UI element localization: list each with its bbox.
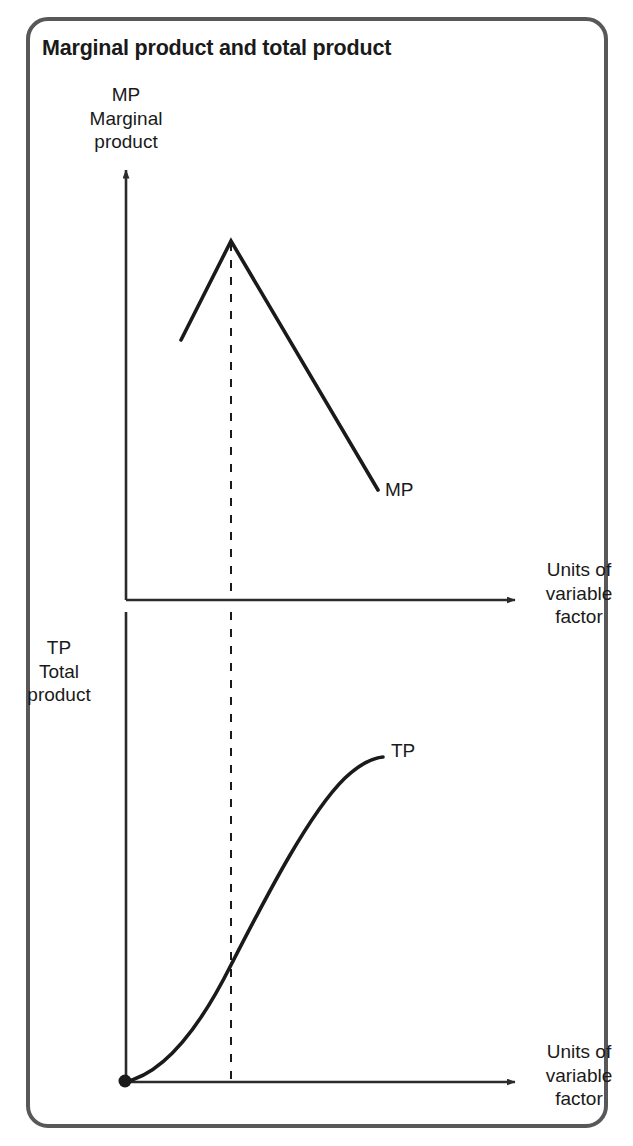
tp-x-axis-label: Units of variable factor	[531, 1040, 627, 1111]
tp-origin-marker	[119, 1075, 132, 1088]
mp-x-axis-label: Units of variable factor	[531, 558, 627, 629]
tp-panel	[119, 612, 516, 1088]
mp-y-axis-label: MP Marginal product	[46, 83, 206, 154]
mp-curve	[181, 241, 378, 490]
tp-y-axis-label: TP Total product	[0, 636, 118, 707]
figure-container: Marginal product and total product	[0, 0, 633, 1146]
tp-curve	[124, 757, 383, 1082]
mp-panel	[126, 170, 515, 600]
tp-series-label: TP	[391, 740, 415, 762]
mp-series-label: MP	[385, 479, 414, 501]
